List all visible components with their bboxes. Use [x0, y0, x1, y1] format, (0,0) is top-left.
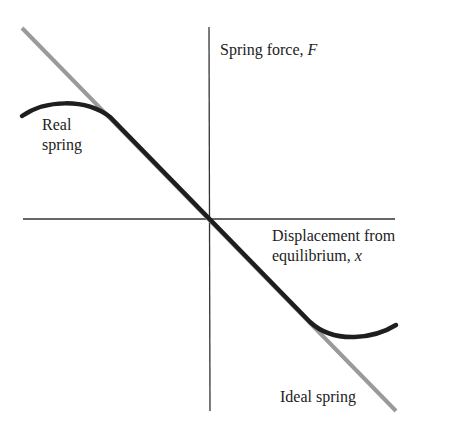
x-axis-label: Displacement from equilibrium, x: [272, 226, 395, 266]
x-axis-label-line1: Displacement from: [272, 226, 395, 246]
real-spring-label-line1: Real: [42, 115, 82, 135]
real-spring-label-line2: spring: [42, 135, 82, 155]
y-axis-label: Spring force, F: [220, 40, 317, 60]
spring-force-diagram: [0, 0, 455, 427]
x-axis-label-line2-text: equilibrium,: [272, 247, 355, 264]
y-axis-label-text: Spring force,: [220, 41, 308, 58]
x-axis-label-line2: equilibrium, x: [272, 246, 395, 266]
y-axis-variable: F: [308, 41, 318, 58]
x-axis-variable: x: [355, 247, 362, 264]
ideal-spring-label: Ideal spring: [280, 387, 356, 407]
real-spring-label: Real spring: [42, 115, 82, 155]
